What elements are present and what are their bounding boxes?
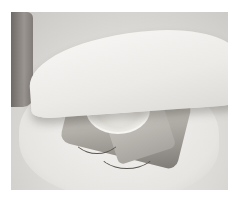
herb-strand: [96, 127, 158, 169]
photo: [11, 12, 228, 190]
